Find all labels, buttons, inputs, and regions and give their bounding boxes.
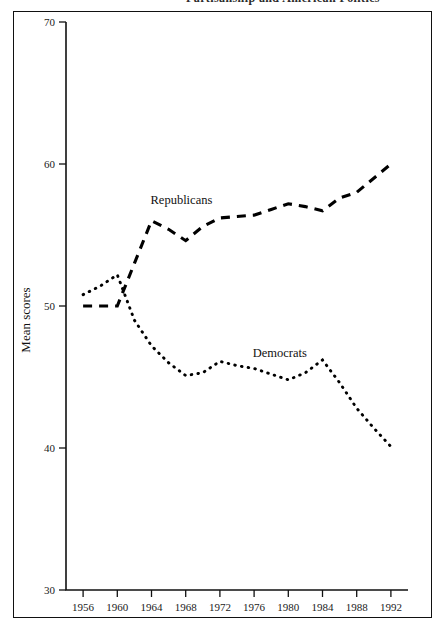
y-tick-label: 30: [44, 584, 56, 596]
x-tick-label: 1964: [141, 601, 164, 613]
y-tick-label: 50: [44, 300, 56, 312]
x-tick-label: 1968: [175, 601, 198, 613]
y-tick-label: 60: [44, 158, 56, 170]
x-tick-label: 1980: [277, 601, 300, 613]
x-tick-label: 1984: [312, 601, 335, 613]
series-line-democrats: [83, 275, 391, 447]
x-axis-ticks: 1956196019641968197219761980198419881992: [72, 590, 402, 613]
x-tick-label: 1956: [72, 601, 95, 613]
x-tick-label: 1972: [209, 601, 231, 613]
x-tick-label: 1960: [106, 601, 129, 613]
axes: 3040506070 19561960196419681972197619801…: [18, 16, 408, 613]
y-axis-title: Mean scores: [18, 287, 33, 352]
y-tick-label: 70: [44, 16, 56, 28]
data-series: [83, 164, 391, 447]
series-label-republicans: Republicans: [151, 193, 213, 207]
series-line-republicans: [83, 164, 391, 306]
series-label-democrats: Democrats: [253, 346, 307, 360]
x-tick-label: 1976: [243, 601, 266, 613]
line-chart: 3040506070 19561960196419681972197619801…: [0, 0, 444, 628]
y-tick-label: 40: [44, 442, 56, 454]
x-tick-label: 1988: [346, 601, 369, 613]
x-tick-label: 1992: [380, 601, 402, 613]
y-axis-ticks: 3040506070: [44, 16, 66, 596]
